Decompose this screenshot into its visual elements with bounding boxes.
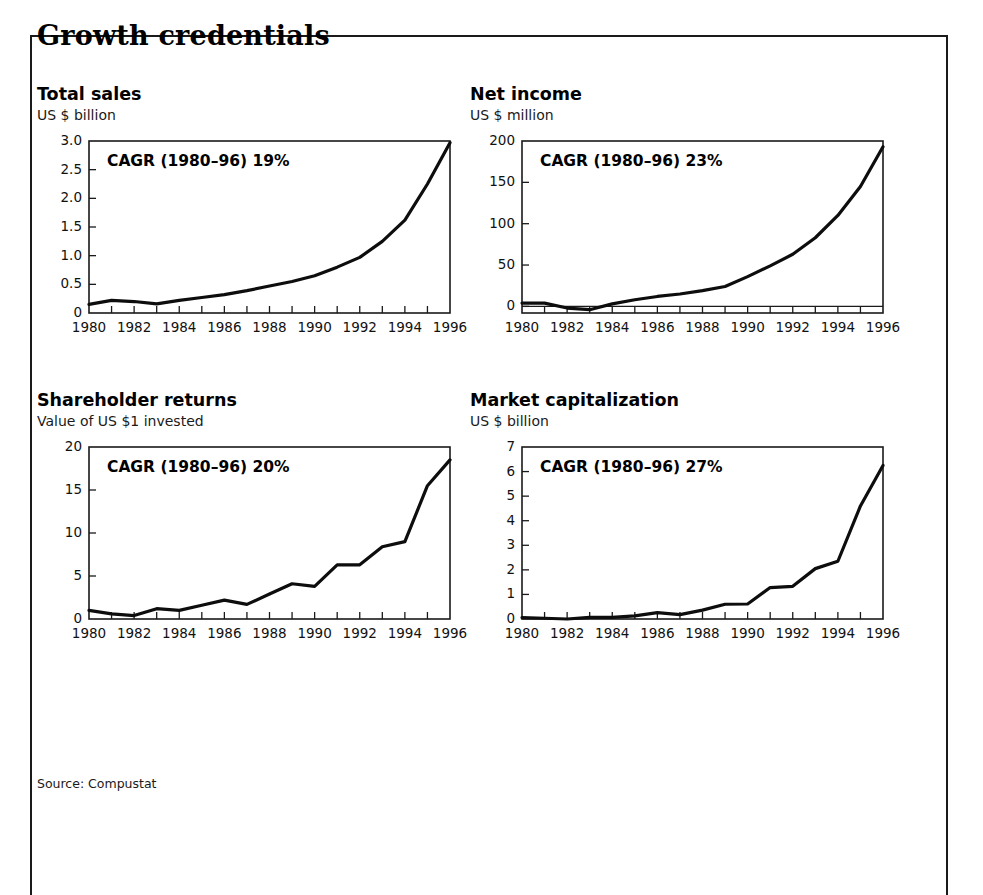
x-axis-tick-label: 1982: [550, 625, 584, 641]
y-axis-tick-label: 0: [73, 304, 82, 320]
cagr-annotation: CAGR (1980–96) 27%: [540, 458, 723, 476]
y-axis-tick-label: 15: [65, 481, 82, 497]
y-axis-tick-label: 6: [506, 463, 515, 479]
x-axis-tick-label: 1986: [207, 625, 241, 641]
chart-plot-shareholder-returns: 0510152019801982198419861988199019921994…: [37, 437, 457, 659]
y-axis-tick-label: 20: [65, 438, 82, 454]
x-axis-tick-label: 1986: [640, 319, 674, 335]
data-series-line: [522, 465, 883, 619]
x-axis-tick-label: 1990: [730, 319, 764, 335]
x-axis-tick-label: 1994: [821, 625, 855, 641]
data-series-line: [89, 460, 450, 616]
exhibit-title: Growth credentials: [37, 20, 330, 51]
x-axis-tick-label: 1996: [433, 319, 467, 335]
chart-subtitle: US $ billion: [37, 106, 457, 124]
x-axis-tick-label: 1986: [207, 319, 241, 335]
x-axis-tick-label: 1988: [685, 625, 719, 641]
source-note: Source: Compustat: [37, 776, 157, 791]
x-axis-tick-label: 1982: [550, 319, 584, 335]
y-axis-tick-label: 1.5: [61, 218, 82, 234]
chart-panel-total-sales: Total sales US $ billion 00.51.01.52.02.…: [37, 84, 457, 353]
x-axis-tick-label: 1982: [117, 319, 151, 335]
chart-title: Total sales: [37, 84, 457, 105]
y-axis-tick-label: 7: [506, 438, 515, 454]
y-axis-tick-label: 0: [506, 610, 515, 626]
line-chart-svg: 0510152019801982198419861988199019921994…: [37, 437, 457, 659]
chart-subtitle: US $ billion: [470, 412, 890, 430]
y-axis-tick-label: 4: [506, 512, 515, 528]
cagr-annotation: CAGR (1980–96) 19%: [107, 152, 290, 170]
data-series-line: [522, 147, 883, 310]
cagr-annotation: CAGR (1980–96) 23%: [540, 152, 723, 170]
y-axis-tick-label: 100: [489, 215, 515, 231]
chart-title: Market capitalization: [470, 390, 890, 411]
y-axis-tick-label: 5: [73, 567, 82, 583]
x-axis-tick-label: 1988: [252, 625, 286, 641]
line-chart-svg: 0501001502001980198219841986198819901992…: [470, 131, 890, 353]
x-axis-tick-label: 1986: [640, 625, 674, 641]
x-axis-tick-label: 1988: [685, 319, 719, 335]
y-axis-tick-label: 5: [506, 487, 515, 503]
chart-panel-shareholder-returns: Shareholder returns Value of US $1 inves…: [37, 390, 457, 659]
x-axis-tick-label: 1994: [821, 319, 855, 335]
x-axis-tick-label: 1990: [730, 625, 764, 641]
x-axis-tick-label: 1980: [505, 625, 539, 641]
line-chart-svg: 0123456719801982198419861988199019921994…: [470, 437, 890, 659]
chart-panel-market-capitalization: Market capitalization US $ billion 01234…: [470, 390, 890, 659]
chart-title: Shareholder returns: [37, 390, 457, 411]
y-axis-tick-label: 200: [489, 132, 515, 148]
x-axis-tick-label: 1984: [595, 319, 629, 335]
y-axis-tick-label: 2.5: [61, 161, 82, 177]
cagr-annotation: CAGR (1980–96) 20%: [107, 458, 290, 476]
x-axis-tick-label: 1982: [117, 625, 151, 641]
x-axis-tick-label: 1996: [433, 625, 467, 641]
chart-plot-market-capitalization: 0123456719801982198419861988199019921994…: [470, 437, 890, 659]
y-axis-tick-label: 2: [506, 561, 515, 577]
x-axis-tick-label: 1994: [388, 319, 422, 335]
y-axis-tick-label: 1: [506, 585, 515, 601]
x-axis-tick-label: 1992: [343, 625, 377, 641]
x-axis-tick-label: 1984: [162, 319, 196, 335]
chart-plot-net-income: 0501001502001980198219841986198819901992…: [470, 131, 890, 353]
chart-panel-net-income: Net income US $ million 0501001502001980…: [470, 84, 890, 353]
y-axis-tick-label: 150: [489, 173, 515, 189]
x-axis-tick-label: 1992: [776, 625, 810, 641]
x-axis-tick-label: 1984: [595, 625, 629, 641]
y-axis-tick-label: 0.5: [61, 275, 82, 291]
x-axis-tick-label: 1990: [297, 319, 331, 335]
y-axis-tick-label: 3.0: [61, 132, 82, 148]
x-axis-tick-label: 1990: [297, 625, 331, 641]
y-axis-tick-label: 10: [65, 524, 82, 540]
x-axis-tick-label: 1980: [505, 319, 539, 335]
x-axis-tick-label: 1994: [388, 625, 422, 641]
chart-plot-total-sales: 00.51.01.52.02.53.0198019821984198619881…: [37, 131, 457, 353]
x-axis-tick-label: 1992: [343, 319, 377, 335]
y-axis-tick-label: 50: [498, 256, 515, 272]
y-axis-tick-label: 3: [506, 536, 515, 552]
x-axis-tick-label: 1980: [72, 625, 106, 641]
y-axis-tick-label: 0: [506, 297, 515, 313]
x-axis-tick-label: 1984: [162, 625, 196, 641]
x-axis-tick-label: 1988: [252, 319, 286, 335]
line-chart-svg: 00.51.01.52.02.53.0198019821984198619881…: [37, 131, 457, 353]
y-axis-tick-label: 2.0: [61, 189, 82, 205]
y-axis-tick-label: 0: [73, 610, 82, 626]
chart-subtitle: US $ million: [470, 106, 890, 124]
x-axis-tick-label: 1980: [72, 319, 106, 335]
x-axis-tick-label: 1996: [866, 625, 900, 641]
x-axis-tick-label: 1992: [776, 319, 810, 335]
x-axis-tick-label: 1996: [866, 319, 900, 335]
chart-title: Net income: [470, 84, 890, 105]
chart-subtitle: Value of US $1 invested: [37, 412, 457, 430]
y-axis-tick-label: 1.0: [61, 247, 82, 263]
